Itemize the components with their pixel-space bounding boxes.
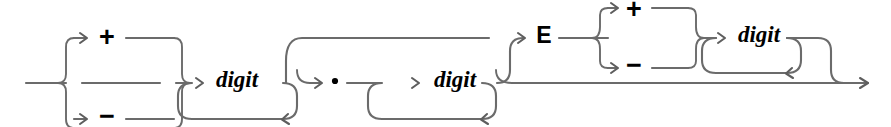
arrow-into-digit-3 bbox=[718, 33, 725, 43]
terminal-minus-mantissa: − bbox=[99, 101, 115, 127]
railroad-diagram-canvas: + − digit · digit bbox=[0, 0, 891, 127]
exit-arrow-group bbox=[840, 78, 868, 88]
terminal-minus-exponent: − bbox=[626, 50, 642, 80]
exponent-exit-descender bbox=[787, 38, 844, 83]
group-integer-part: digit bbox=[178, 67, 322, 124]
group-exponent-digits: digit bbox=[702, 22, 844, 83]
terminal-plus-mantissa: + bbox=[99, 22, 115, 52]
arrow-into-digit-1 bbox=[196, 78, 203, 88]
terminal-plus-exponent: + bbox=[626, 0, 642, 24]
group-exponent: E + − bbox=[497, 0, 844, 83]
join-after-digit-1 bbox=[297, 70, 310, 83]
terminal-decimal-point bbox=[332, 78, 338, 84]
syntax-diagram: + − digit · digit bbox=[0, 0, 891, 127]
nonterminal-digit-1: digit bbox=[216, 67, 259, 92]
exponent-entry-riser bbox=[497, 38, 523, 83]
nonterminal-digit-2: digit bbox=[434, 67, 477, 92]
nonterminal-digit-3: digit bbox=[738, 22, 781, 47]
group-exponent-sign: + − bbox=[592, 0, 716, 80]
repeat-loop-digit-2 bbox=[368, 83, 496, 119]
group-mantissa-sign: + − bbox=[58, 22, 190, 127]
terminal-exponent-marker: E bbox=[536, 22, 551, 48]
arrow-into-digit-2 bbox=[412, 78, 419, 88]
